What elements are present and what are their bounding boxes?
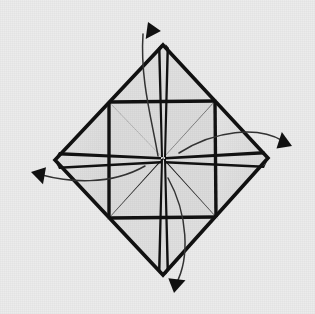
fold-arrow-left-head <box>28 163 48 184</box>
panel-south-east <box>109 217 216 275</box>
fold-arrow-top-head <box>141 19 162 39</box>
panel-east-north <box>215 101 268 217</box>
fold-arrow-right-head <box>274 132 296 154</box>
panel-north-west <box>109 45 215 102</box>
panel-west-north <box>55 102 109 218</box>
inner-edge-right <box>215 101 216 217</box>
inner-edge-top <box>109 101 215 102</box>
inner-edge-bottom <box>109 217 216 218</box>
fold-arrow-bottom-head <box>165 275 186 295</box>
origami-diagram-canvas <box>0 0 315 314</box>
origami-diagram-figure <box>0 0 315 314</box>
